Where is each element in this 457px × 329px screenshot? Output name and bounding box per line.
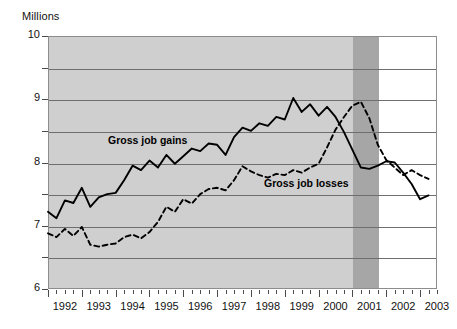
x-axis-tick-minor [336, 290, 337, 294]
x-axis-tick-major [285, 290, 286, 297]
series-line-gross-job-losses [48, 102, 429, 247]
x-axis-tick-minor [369, 290, 370, 294]
x-axis-tick-minor [209, 290, 210, 294]
x-axis-tick-minor [276, 290, 277, 294]
series-lines [48, 36, 437, 289]
annotation-gross-job-gains: Gross job gains [108, 134, 187, 146]
x-axis-tick-minor [133, 290, 134, 294]
x-axis-tick-major [386, 290, 387, 297]
x-axis-tick-minor [429, 290, 430, 294]
x-axis-tick-minor [395, 290, 396, 294]
x-axis-tick-major [352, 290, 353, 297]
y-axis-label: 8 [14, 155, 40, 167]
x-axis-tick-minor [327, 290, 328, 294]
x-axis-tick-major [251, 290, 252, 297]
x-axis-tick-minor [378, 290, 379, 294]
x-axis-label: 2003 [417, 300, 457, 312]
x-axis-tick-minor [200, 290, 201, 294]
x-axis-tick-minor [234, 290, 235, 294]
x-axis-tick-minor [437, 290, 438, 294]
x-axis-tick-minor [99, 290, 100, 294]
x-axis-tick-minor [158, 290, 159, 294]
x-axis-tick-minor [361, 290, 362, 294]
x-axis-tick-major [48, 290, 49, 297]
x-axis-tick-minor [293, 290, 294, 294]
x-axis-tick-minor [344, 290, 345, 294]
x-axis-tick-minor [166, 290, 167, 294]
series-line-gross-job-gains [48, 98, 429, 218]
x-axis-tick-minor [403, 290, 404, 294]
x-axis-tick-minor [107, 290, 108, 294]
x-axis-tick-minor [192, 290, 193, 294]
y-axis-label: 9 [14, 91, 40, 103]
x-axis-tick-major [149, 290, 150, 297]
x-axis-tick-major [82, 290, 83, 297]
y-axis-label: 6 [14, 281, 40, 293]
x-axis-tick-minor [56, 290, 57, 294]
x-axis-tick-minor [65, 290, 66, 294]
job-gains-losses-chart: Millions 678910 199219931994199519961997… [0, 0, 457, 329]
x-axis-tick-minor [412, 290, 413, 294]
x-axis-tick-minor [141, 290, 142, 294]
x-axis-tick-major [420, 290, 421, 297]
x-axis-tick-minor [302, 290, 303, 294]
x-axis-tick-minor [124, 290, 125, 294]
annotation-gross-job-losses: Gross job losses [264, 177, 349, 189]
y-axis-title: Millions [22, 10, 59, 22]
x-axis-tick-minor [310, 290, 311, 294]
y-axis-label: 10 [14, 28, 40, 40]
x-axis-tick-minor [175, 290, 176, 294]
x-axis-tick-minor [73, 290, 74, 294]
x-axis-tick-minor [243, 290, 244, 294]
x-axis-tick-minor [90, 290, 91, 294]
x-axis-tick-major [183, 290, 184, 297]
y-axis-label: 7 [14, 218, 40, 230]
x-axis-tick-minor [268, 290, 269, 294]
x-axis-tick-major [217, 290, 218, 297]
x-axis-tick-minor [259, 290, 260, 294]
x-axis-tick-minor [226, 290, 227, 294]
x-axis-tick-major [319, 290, 320, 297]
x-axis-tick-major [116, 290, 117, 297]
